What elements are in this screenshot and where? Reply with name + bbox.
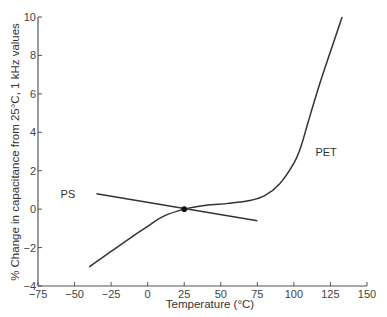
x-tick-label: 0: [145, 288, 151, 300]
y-tick-label: 8: [30, 49, 36, 61]
x-tick-label: −25: [102, 288, 121, 300]
series-label-ps: PS: [61, 188, 76, 200]
series-label-pet: PET: [315, 146, 337, 158]
y-tick-label: −2: [23, 242, 36, 254]
y-tick-label: 0: [30, 203, 36, 215]
y-tick-label: 10: [24, 11, 36, 23]
y-tick-label: 6: [30, 88, 36, 100]
chart-canvas: −4−20246810−75−50−250255075100125150 PSP…: [0, 0, 387, 317]
x-tick-label: −75: [29, 288, 48, 300]
series-layer: PSPET: [61, 17, 343, 267]
reference-point-marker: [181, 206, 187, 212]
x-tick-label: 100: [285, 288, 303, 300]
x-tick-label: 125: [321, 288, 339, 300]
x-axis-title: Temperature (°C): [166, 298, 254, 310]
x-tick-label: 150: [358, 288, 376, 300]
y-tick-label: 2: [30, 165, 36, 177]
series-line-ps: [96, 194, 257, 221]
y-tick-label: 4: [30, 126, 36, 138]
y-axis-title: % Change in capacitance from 25°C, 1 kHz…: [9, 23, 21, 281]
x-tick-label: −50: [65, 288, 84, 300]
series-line-pet: [89, 17, 342, 267]
